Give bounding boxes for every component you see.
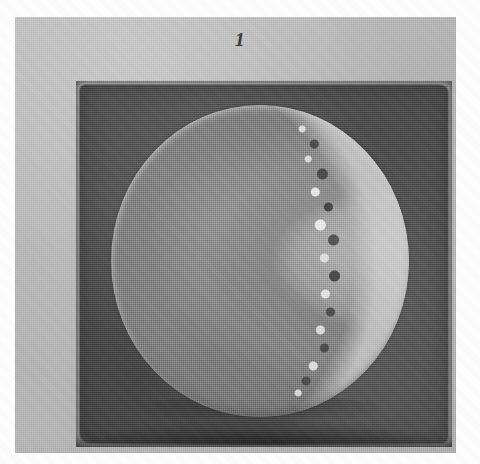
specimen-dark-boundary-arc — [111, 105, 409, 417]
dark-field-bottom-smudge — [95, 419, 434, 445]
plate-mount-background — [15, 17, 456, 453]
specimen-rim-highlight — [111, 105, 409, 417]
figure-plate-image: 1 — [0, 0, 480, 464]
specimen-left-rim-highlight — [111, 105, 409, 417]
figure-number-label: 1 — [0, 30, 480, 49]
specimen-surface-texture — [111, 105, 409, 417]
specimen-bright-crescent — [111, 105, 409, 417]
specimen-disc — [111, 105, 409, 417]
specimen-speckled-boundary-band — [284, 111, 385, 411]
